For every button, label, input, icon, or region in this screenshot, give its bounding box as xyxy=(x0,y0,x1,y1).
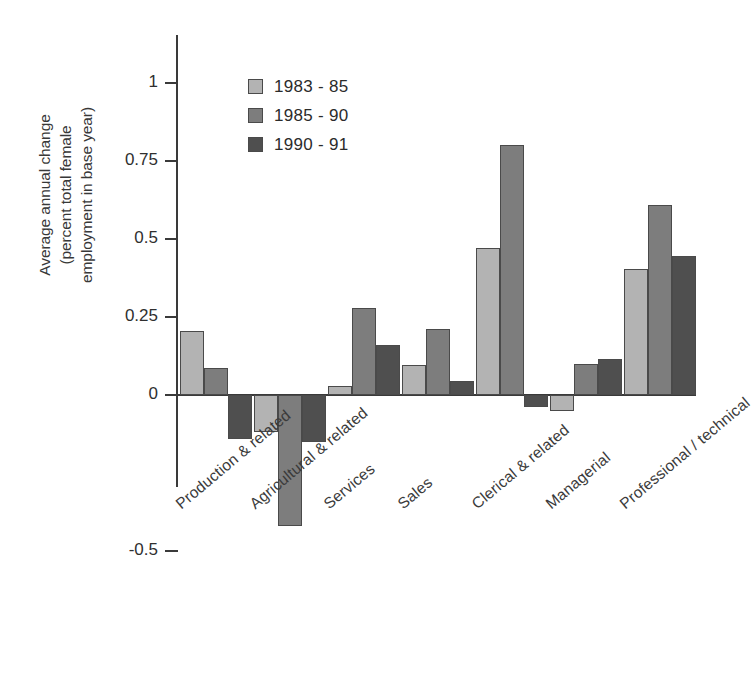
y-tick-label: 0.5 xyxy=(88,228,158,248)
y-tick-label: 0.25 xyxy=(88,306,158,326)
bar xyxy=(450,381,474,395)
bar xyxy=(402,365,426,395)
y-axis-line xyxy=(176,35,178,487)
y-tick-label: 1 xyxy=(88,72,158,92)
legend-label: 1985 - 90 xyxy=(274,106,349,126)
bar xyxy=(228,395,252,439)
y-tick-mark xyxy=(165,550,178,552)
legend: 1983 - 851985 - 901990 - 91 xyxy=(248,72,438,159)
legend-item: 1990 - 91 xyxy=(248,130,438,159)
bar xyxy=(476,248,500,395)
bar xyxy=(500,145,524,395)
bar xyxy=(426,329,450,395)
bar xyxy=(648,205,672,395)
bar xyxy=(376,345,400,395)
y-tick-mark xyxy=(165,394,178,396)
y-axis-title-line-3: employment in base year) xyxy=(76,107,97,283)
y-tick-mark xyxy=(165,238,178,240)
bar xyxy=(598,359,622,395)
bar xyxy=(574,364,598,395)
y-tick-mark xyxy=(165,160,178,162)
y-tick-label: -0.5 xyxy=(88,540,158,560)
legend-item: 1985 - 90 xyxy=(248,101,438,130)
bar xyxy=(352,308,376,395)
figure-caption xyxy=(8,682,698,696)
bar xyxy=(328,386,352,395)
legend-item: 1983 - 85 xyxy=(248,72,438,101)
bar xyxy=(624,269,648,395)
y-axis-title-line-1: Average annual change xyxy=(34,114,55,275)
legend-swatch-icon xyxy=(248,79,263,94)
bar xyxy=(672,256,696,395)
y-axis-title-line-2: (percent total female xyxy=(55,125,76,264)
y-tick-label: 0.75 xyxy=(88,150,158,170)
legend-swatch-icon xyxy=(248,108,263,123)
bar xyxy=(204,368,228,395)
bar xyxy=(550,395,574,411)
bar xyxy=(524,395,548,407)
y-tick-mark xyxy=(165,82,178,84)
legend-label: 1990 - 91 xyxy=(274,135,349,155)
bar xyxy=(180,331,204,395)
legend-swatch-icon xyxy=(248,137,263,152)
y-tick-mark xyxy=(165,316,178,318)
y-tick-label: 0 xyxy=(88,384,158,404)
legend-label: 1983 - 85 xyxy=(274,77,349,97)
